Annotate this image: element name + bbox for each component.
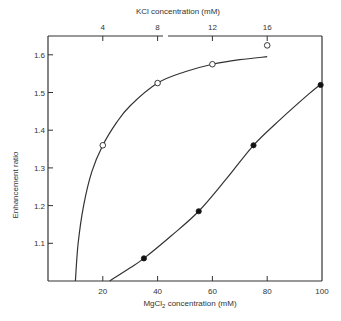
top-axis-title: KCl concentration (mM) [136,7,220,16]
top-axis-ticks: 481216 [101,23,273,41]
x-axis-title: MgCl2 concentration (mM) [143,299,236,309]
fit-curve-2 [110,83,322,281]
y-axis-ticks: 1.11.21.31.41.51.6 [34,51,53,249]
filled-data-point [196,209,201,214]
filled-data-point [251,143,256,148]
y-tick-label: 1.3 [34,164,46,173]
y-tick-label: 1.2 [34,202,46,211]
y-tick-label: 1.5 [34,89,46,98]
filled-data-point [141,256,146,261]
open-data-point [100,142,106,148]
plot-frame [48,36,322,281]
top-tick-label: 8 [155,23,160,32]
x-axis-ticks: 20406080100 [98,276,329,296]
y-axis-title: Enhancement ratio [11,151,20,219]
x-tick-label: 40 [153,287,162,296]
top-tick-label: 4 [101,23,106,32]
x-tick-label: 80 [263,287,272,296]
x-tick-label: 20 [98,287,107,296]
data-points [100,43,323,261]
x-tick-label: 100 [315,287,329,296]
top-tick-label: 16 [263,23,272,32]
y-tick-label: 1.1 [34,239,46,248]
y-tick-label: 1.4 [34,126,46,135]
open-data-point [155,80,161,86]
chart: 1.11.21.31.41.51.6 20406080100 481216 KC… [0,0,341,321]
x-tick-label: 60 [208,287,217,296]
y-tick-label: 1.6 [34,51,46,60]
filled-data-point [318,82,323,87]
fit-curve-1 [75,57,267,281]
fit-curves [75,57,322,281]
top-tick-label: 12 [208,23,217,32]
open-data-point [264,43,270,49]
open-data-point [210,61,216,67]
